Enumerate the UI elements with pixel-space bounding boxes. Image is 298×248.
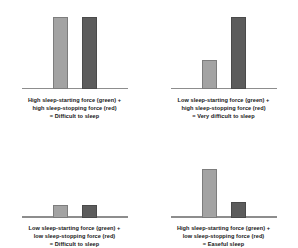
bar-sleep-starting-force	[53, 17, 68, 89]
caption-line-2: high sleep-stopping force (red)	[5, 104, 145, 112]
sleep-force-figure: High sleep-starting force (green) + high…	[0, 0, 298, 248]
bar-sleep-stopping-force	[231, 17, 246, 89]
plot-area	[169, 17, 279, 89]
plot-area	[169, 169, 279, 218]
panel-caption: High sleep-starting force (green) + high…	[5, 96, 145, 120]
bar-sleep-stopping-force	[231, 202, 246, 218]
caption-line-3: = Difficult to sleep	[5, 112, 145, 120]
bar-sleep-stopping-force	[82, 17, 97, 89]
plot-area	[20, 169, 130, 218]
axis-baseline	[171, 88, 277, 90]
chart-panel-low-low: Low sleep-starting force (green) + low s…	[0, 124, 149, 248]
bar-sleep-starting-force	[202, 169, 217, 218]
panel-caption: Low sleep-starting force (green) + high …	[154, 96, 294, 120]
caption-line-2: low sleep-stopping force (red)	[5, 232, 145, 240]
caption-line-3: = Very difficult to sleep	[154, 112, 294, 120]
caption-line-1: High sleep-starting force (green) +	[5, 96, 145, 104]
axis-baseline	[22, 216, 128, 218]
caption-line-1: High sleep-starting force (green) +	[154, 224, 294, 232]
axis-baseline	[22, 88, 128, 90]
caption-line-1: Low sleep-starting force (green) +	[5, 224, 145, 232]
bar-sleep-starting-force	[53, 205, 68, 218]
bar-sleep-starting-force	[202, 60, 217, 89]
panel-caption: Low sleep-starting force (green) + low s…	[5, 224, 145, 248]
chart-panel-high-high: High sleep-starting force (green) + high…	[0, 0, 149, 124]
axis-baseline	[171, 216, 277, 218]
chart-panel-low-high: Low sleep-starting force (green) + high …	[149, 0, 298, 124]
caption-line-2: low sleep-stopping force (red)	[154, 232, 294, 240]
bar-sleep-stopping-force	[82, 205, 97, 218]
caption-line-3: = Difficult to sleep	[5, 240, 145, 248]
panel-caption: High sleep-starting force (green) + low …	[154, 224, 294, 248]
chart-panel-high-low: High sleep-starting force (green) + low …	[149, 124, 298, 248]
caption-line-3: = Easeful sleep	[154, 240, 294, 248]
caption-line-1: Low sleep-starting force (green) +	[154, 96, 294, 104]
caption-line-2: high sleep-stopping force (red)	[154, 104, 294, 112]
plot-area	[20, 17, 130, 89]
